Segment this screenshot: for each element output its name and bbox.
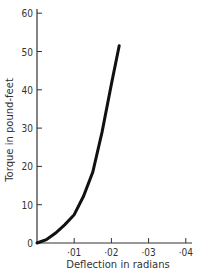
x-tick-label: ·04	[179, 247, 194, 258]
x-tick-label: ·03	[141, 247, 155, 258]
y-axis: 0102030405060	[22, 8, 42, 249]
y-tick-label: 40	[22, 85, 34, 96]
x-axis-label: Deflection in radians	[66, 259, 169, 270]
y-axis-label: Torque in pound-feet	[4, 78, 15, 183]
x-tick-label: ·01	[67, 247, 81, 258]
data-line	[37, 46, 119, 243]
y-tick-label: 60	[22, 8, 34, 19]
y-tick-label: 50	[22, 47, 34, 58]
x-tick-label: ·02	[104, 247, 118, 258]
y-tick-label: 30	[22, 123, 34, 134]
chart: 0102030405060 ·01·02·03·04 Torque in pou…	[0, 0, 201, 276]
y-tick-label: 20	[22, 161, 34, 172]
y-tick-label: 10	[22, 200, 34, 211]
y-tick-label: 0	[27, 238, 33, 249]
x-axis: ·01·02·03·04	[37, 238, 193, 258]
